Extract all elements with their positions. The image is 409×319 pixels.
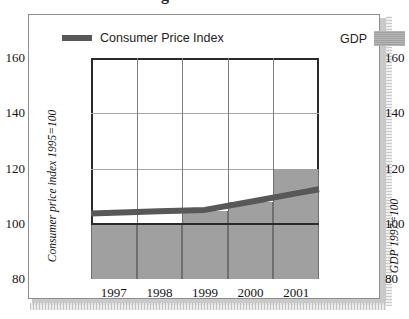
clipped-page-heading: Bestimmt uns Nahrung ausreichen? <box>0 0 402 13</box>
y-axis-tick-label: 160 <box>385 50 409 66</box>
y-axis-tick-label: 80 <box>385 271 409 287</box>
clipped-heading-text: Bestimmt uns Nahrung ausreichen? <box>6 0 257 4</box>
cpi-line-series <box>91 58 319 279</box>
y-axis-tick-label: 100 <box>0 216 25 232</box>
y-axis-tick-label: 120 <box>385 161 409 177</box>
y-axis-tick-label: 120 <box>0 161 25 177</box>
y-axis-tick-label: 160 <box>0 50 25 66</box>
x-axis-tick-label: 2001 <box>266 285 326 301</box>
y-axis-tick-label: 100 <box>385 216 409 232</box>
y-axis-tick-label: 80 <box>0 271 25 287</box>
chart-figure: Consumer Price Index GDP Consumer price … <box>28 14 380 299</box>
y-axis-tick-label: 140 <box>385 105 409 121</box>
scan-edge-artifact-bottom <box>30 303 386 310</box>
plot-wrapper: 80100120140160 80100120140160 1997199819… <box>29 15 381 300</box>
y-axis-tick-label: 140 <box>0 105 25 121</box>
plot-area: 80100120140160 80100120140160 1997199819… <box>91 58 319 279</box>
